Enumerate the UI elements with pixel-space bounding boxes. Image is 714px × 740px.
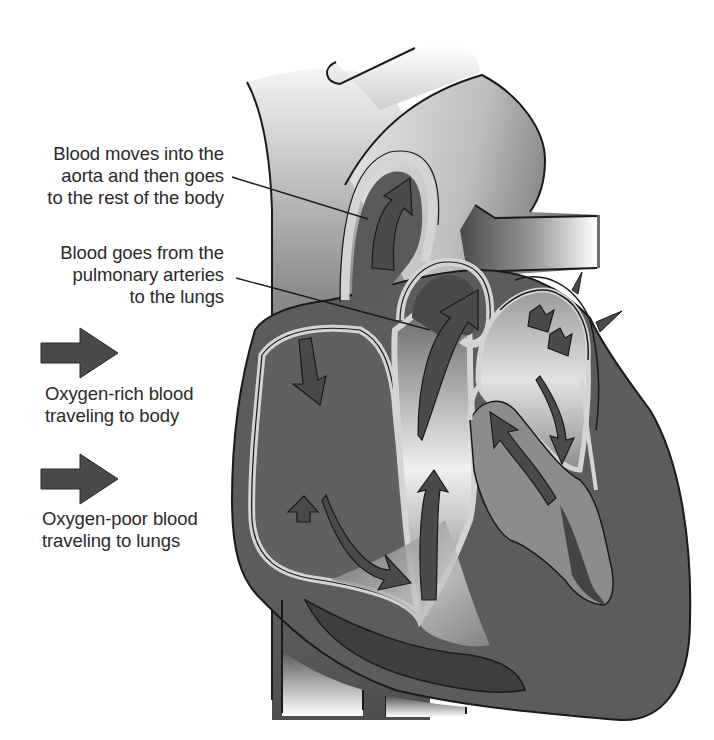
legend-oxygen-rich-line-2: traveling to body	[45, 405, 193, 427]
legend-arrow-oxygen-poor-icon	[41, 454, 118, 504]
callout-aorta-line-3: to the rest of the body	[0, 187, 224, 209]
callout-pulmonary-line-1: Blood goes from the	[0, 242, 224, 264]
callout-aorta: Blood moves into the aorta and then goes…	[0, 143, 224, 209]
heart-illustration	[0, 0, 714, 740]
legend-oxygen-poor: Oxygen-poor blood traveling to lungs	[42, 508, 198, 552]
callout-pulmonary-line-2: pulmonary arteries	[0, 264, 224, 286]
legend-arrow-oxygen-rich-icon	[41, 328, 118, 378]
heart-diagram: Blood moves into the aorta and then goes…	[0, 0, 714, 740]
legend-oxygen-poor-line-2: traveling to lungs	[42, 530, 198, 552]
legend-oxygen-rich-line-1: Oxygen-rich blood	[45, 383, 193, 405]
legend-oxygen-rich: Oxygen-rich blood traveling to body	[45, 383, 193, 427]
legend-oxygen-poor-line-1: Oxygen-poor blood	[42, 508, 198, 530]
callout-aorta-line-1: Blood moves into the	[0, 143, 224, 165]
callout-pulmonary: Blood goes from the pulmonary arteries t…	[0, 242, 224, 308]
callout-aorta-line-2: aorta and then goes	[0, 165, 224, 187]
callout-pulmonary-line-3: to the lungs	[0, 286, 224, 308]
